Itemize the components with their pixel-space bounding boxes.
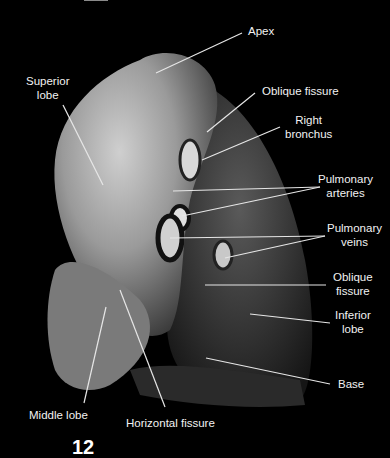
label-pulmonary-arteries-line1: Pulmonary (318, 172, 373, 186)
label-oblique-fissure-bottom: Oblique fissure (333, 270, 373, 298)
figure-number: 12 (72, 436, 94, 458)
label-oblique-fissure-bottom-line1: Oblique (333, 270, 373, 284)
label-pulmonary-arteries-line2: arteries (318, 186, 373, 200)
label-middle-lobe: Middle lobe (29, 408, 88, 422)
label-inferior-lobe: Inferior lobe (335, 308, 371, 336)
vein-shape-2 (214, 241, 232, 269)
label-horizontal-fissure: Horizontal fissure (126, 416, 215, 430)
label-superior-lobe-line1: Superior (26, 74, 69, 88)
label-pulmonary-veins-line1: Pulmonary (327, 221, 382, 235)
label-right-bronchus-line2: bronchus (285, 127, 332, 141)
label-oblique-fissure-top: Oblique fissure (262, 84, 339, 98)
label-inferior-lobe-line1: Inferior (335, 308, 371, 322)
label-pulmonary-arteries: Pulmonary arteries (318, 172, 373, 200)
label-apex: Apex (248, 24, 274, 38)
label-right-bronchus-line1: Right (285, 113, 332, 127)
label-right-bronchus: Right bronchus (285, 113, 332, 141)
label-pulmonary-veins: Pulmonary veins (327, 221, 382, 249)
bronchus-shape (180, 140, 200, 180)
label-oblique-fissure-bottom-line2: fissure (333, 284, 373, 298)
label-superior-lobe-line2: lobe (26, 88, 69, 102)
label-superior-lobe: Superior lobe (26, 74, 69, 102)
label-pulmonary-veins-line2: veins (327, 235, 382, 249)
label-inferior-lobe-line2: lobe (335, 322, 371, 336)
label-base: Base (338, 377, 364, 391)
